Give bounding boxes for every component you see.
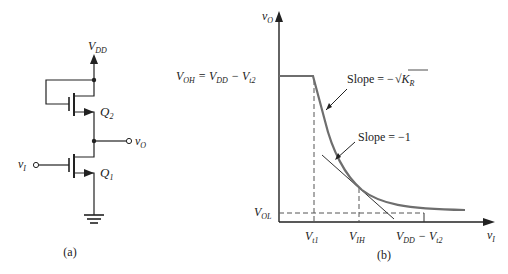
tick-vih: VIH (349, 229, 366, 245)
vdd-supply-arrow-icon (90, 54, 98, 80)
output-label: vO (135, 134, 146, 150)
vdd-label: VDD (88, 39, 107, 55)
slope-annotation-2: Slope = −1 (358, 130, 411, 144)
y-axis-label: vO (262, 9, 273, 25)
slope-annotation-1: Slope = −√KR (347, 72, 414, 88)
circuit-diagram: VDD Q2 vO vI Q1 (18, 39, 146, 259)
q2-source-arrow-icon (84, 108, 94, 116)
ground-icon (84, 215, 104, 223)
input-terminal (33, 162, 38, 167)
q2-drain (74, 80, 94, 96)
x-axis-label: vI (487, 228, 495, 244)
transfer-characteristic-graph: vO vI VOH = VDD − Vt2 VOL Slope = −√KR S… (176, 9, 495, 262)
q2-source (74, 112, 94, 141)
tick-vdd-minus-vt2: VDD − Vt2 (396, 229, 443, 245)
tick-vt1: Vt1 (305, 229, 319, 245)
q1-source-arrow-icon (84, 169, 94, 177)
q2-gate-wire (46, 80, 94, 104)
q2-label: Q2 (100, 104, 113, 121)
q1-label: Q1 (100, 165, 113, 182)
x-axis-arrow-icon (483, 218, 495, 226)
vol-label: VOL (254, 205, 272, 221)
caption-a: (a) (63, 245, 76, 259)
caption-b: (b) (377, 248, 391, 262)
input-label: vI (18, 157, 26, 173)
y-axis-arrow-icon (275, 11, 283, 22)
q1-source (74, 173, 94, 215)
output-terminal (126, 138, 131, 143)
voh-label: VOH = VDD − Vt2 (176, 69, 256, 85)
annotation-1-arrow-icon (326, 103, 332, 110)
q1-drain (74, 141, 94, 157)
figure-canvas: VDD Q2 vO vI Q1 (0, 0, 508, 274)
